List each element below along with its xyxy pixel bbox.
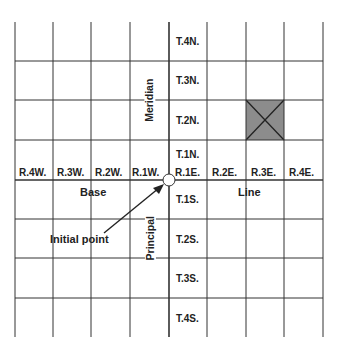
range-label-r3e: R.3E.	[251, 168, 276, 178]
township-label-t4n: T.4N.	[176, 37, 199, 47]
township-label-t2s: T.2S.	[176, 235, 199, 245]
line-label: Line	[238, 187, 261, 198]
township-label-t2n: T.2N.	[176, 116, 199, 126]
township-label-t1s: T.1S.	[176, 195, 199, 205]
range-label-r4e: R.4E.	[289, 168, 314, 178]
principal-label: Principal	[145, 214, 156, 262]
range-label-r2w: R.2W.	[95, 168, 122, 178]
township-label-t4s: T.4S.	[176, 314, 199, 324]
range-label-r4w: R.4W.	[19, 168, 46, 178]
range-label-r3w: R.3W.	[57, 168, 84, 178]
township-label-t3n: T.3N.	[176, 76, 199, 86]
range-label-r2e: R.2E.	[212, 168, 237, 178]
township-label-t1n: T.1N.	[176, 150, 199, 160]
meridian-label: Meridian	[144, 77, 155, 124]
base-label: Base	[80, 187, 106, 198]
survey-diagram: R.4W. R.3W. R.2W. R.1W. R.1E. R.2E. R.3E…	[0, 0, 340, 355]
range-label-r1e: R.1E.	[175, 168, 200, 178]
initial-point-marker	[163, 174, 175, 186]
range-label-r1w: R.1W.	[132, 168, 159, 178]
initial-point-label: Initial point	[50, 234, 109, 245]
township-label-t3s: T.3S.	[176, 274, 199, 284]
